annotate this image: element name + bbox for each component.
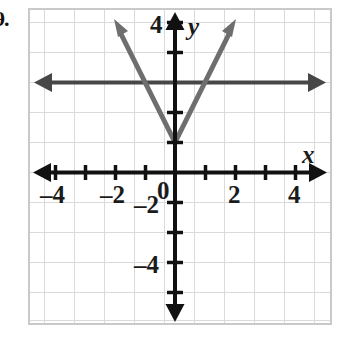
series-horizontal-line	[34, 73, 326, 92]
graph-figure: 9.	[0, 0, 346, 347]
xtick-label-neg2: –2	[100, 182, 125, 207]
ytick-label-neg4: –4	[134, 252, 159, 277]
axes	[33, 12, 327, 322]
grid-lines	[30, 10, 330, 323]
ytick-label-pos4: 4	[150, 12, 163, 37]
ytick-label-neg2: –2	[134, 192, 159, 217]
x-axis-label: x	[302, 142, 315, 167]
coordinate-plane: –4 –2 0 2 4 4 –2 –4 y x	[28, 8, 332, 325]
xtick-label-pos4: 4	[288, 182, 301, 207]
exercise-number: 9.	[0, 6, 16, 32]
graph-canvas	[30, 10, 330, 323]
xtick-label-pos2: 2	[228, 182, 241, 207]
xtick-label-neg4: –4	[40, 182, 65, 207]
y-axis-label: y	[188, 14, 199, 39]
